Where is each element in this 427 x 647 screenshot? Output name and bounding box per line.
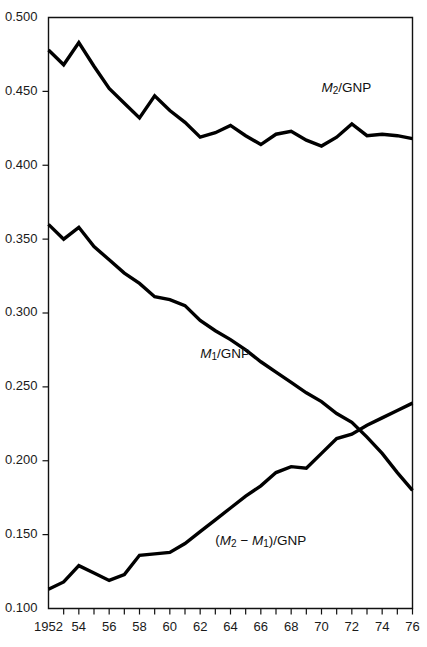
y-axis-tick-marks <box>43 91 49 534</box>
y-tick-label: 0.300 <box>5 304 38 319</box>
x-tick-label: 64 <box>223 619 237 634</box>
x-tick-label: 54 <box>72 619 86 634</box>
plot-frame <box>49 18 413 609</box>
series-annotation: M2/GNP <box>322 80 372 96</box>
y-tick-label: 0.250 <box>5 378 38 393</box>
series-annotation-group: M2/GNPM1/GNP(M2 − M1)/GNP <box>200 80 371 548</box>
series-annotation: M1/GNP <box>200 346 250 362</box>
y-tick-label: 0.150 <box>5 526 38 541</box>
series-line-m2-m1-gnp <box>49 403 413 589</box>
y-tick-label: 0.350 <box>5 231 38 246</box>
x-tick-label: 58 <box>132 619 146 634</box>
y-axis-tick-labels: 0.1000.1500.2000.2500.3000.3500.4000.450… <box>5 9 38 615</box>
x-tick-label: 1952 <box>34 619 63 634</box>
x-tick-label: 76 <box>405 619 419 634</box>
line-chart: 0.1000.1500.2000.2500.3000.3500.4000.450… <box>0 0 427 647</box>
x-tick-label: 56 <box>102 619 116 634</box>
x-axis-tick-labels: 1952545658606264666870727476 <box>34 619 420 634</box>
x-tick-label: 60 <box>163 619 177 634</box>
x-tick-label: 74 <box>375 619 389 634</box>
series-annotation: (M2 − M1)/GNP <box>215 532 306 548</box>
x-tick-label: 72 <box>345 619 359 634</box>
y-tick-label: 0.100 <box>5 600 38 615</box>
x-tick-label: 66 <box>254 619 268 634</box>
data-series-group <box>49 43 413 590</box>
x-axis-tick-marks <box>64 609 413 615</box>
x-tick-label: 62 <box>193 619 207 634</box>
y-tick-label: 0.400 <box>5 157 38 172</box>
y-tick-label: 0.500 <box>5 9 38 24</box>
x-tick-label: 70 <box>314 619 328 634</box>
y-tick-label: 0.450 <box>5 83 38 98</box>
chart-figure: 0.1000.1500.2000.2500.3000.3500.4000.450… <box>0 0 427 647</box>
y-tick-label: 0.200 <box>5 452 38 467</box>
x-tick-label: 68 <box>284 619 298 634</box>
